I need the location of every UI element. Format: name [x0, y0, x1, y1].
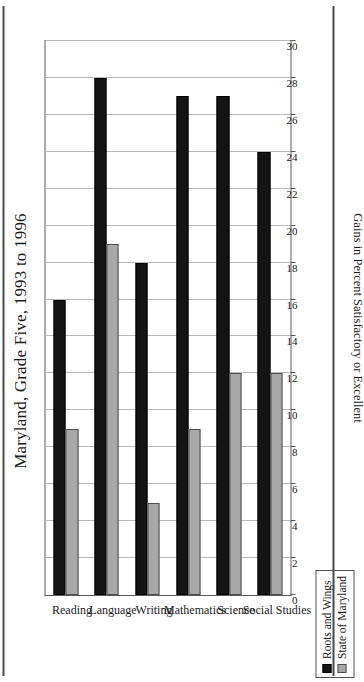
- bar-state-of-maryland: [106, 244, 118, 595]
- legend-item-label: State of Maryland: [336, 576, 348, 659]
- bar-roots-and-wings: [176, 96, 188, 595]
- bar-roots-and-wings: [53, 300, 65, 595]
- bottom-divider-rule: [332, 6, 334, 676]
- category-label-reading: Reading: [52, 603, 92, 618]
- legend-item-label: Roots and Wings: [321, 580, 333, 659]
- bar-group: [208, 41, 249, 595]
- bar-group: [86, 41, 127, 595]
- bar-state-of-maryland: [65, 429, 77, 595]
- category-label-social-studies: Social Studies: [242, 603, 310, 618]
- axis-tick-label: 10: [292, 410, 303, 421]
- axis-tick-label: 30: [292, 41, 303, 52]
- bar-roots-and-wings: [94, 78, 106, 595]
- plot-area: 024681012141618202224262830: [44, 40, 291, 596]
- category-label-language: Language: [89, 603, 136, 618]
- filled-square-icon: [337, 664, 346, 673]
- bar-group: [127, 41, 168, 595]
- axis-tick-label: 26: [292, 115, 303, 126]
- axis-tick-label: 18: [292, 263, 303, 274]
- axis-tick-label: 2: [294, 558, 300, 569]
- axis-tick-label: 6: [294, 484, 300, 495]
- title-overflow-fragment: [0, 0, 2, 682]
- bar-group: [45, 41, 86, 595]
- bar-state-of-maryland: [270, 373, 282, 595]
- bar-state-of-maryland: [147, 503, 159, 595]
- axis-tick-label: 22: [292, 189, 303, 200]
- axis-tick-label: 4: [294, 521, 300, 532]
- bar-roots-and-wings: [216, 96, 228, 595]
- bars-layer: [45, 41, 290, 595]
- bar-roots-and-wings: [257, 152, 269, 595]
- bar-state-of-maryland: [229, 373, 241, 595]
- axis-tick-label: 20: [292, 226, 303, 237]
- axis-tick-label: 24: [292, 152, 303, 163]
- bar-group: [168, 41, 209, 595]
- axis-tick-label: 12: [292, 373, 303, 384]
- filled-square-icon: [322, 664, 331, 673]
- axis-tick-label: 28: [292, 78, 303, 89]
- chart-legend: Roots and WingsState of Maryland: [315, 570, 354, 678]
- axis-tick-label: 14: [292, 336, 303, 347]
- bar-state-of-maryland: [188, 429, 200, 595]
- legend-item: State of Maryland: [334, 576, 349, 673]
- axis-tick-label: 8: [294, 447, 300, 458]
- page-title: Maryland, Grade Five, 1993 to 1996: [10, 0, 30, 682]
- bar-group: [249, 41, 290, 595]
- value-axis-title: Gains in Percent Satisfactory or Excelle…: [349, 213, 364, 422]
- axis-tick-label: 16: [292, 300, 303, 311]
- category-label-mathematics: Mathematics: [163, 603, 225, 618]
- bar-roots-and-wings: [135, 263, 147, 595]
